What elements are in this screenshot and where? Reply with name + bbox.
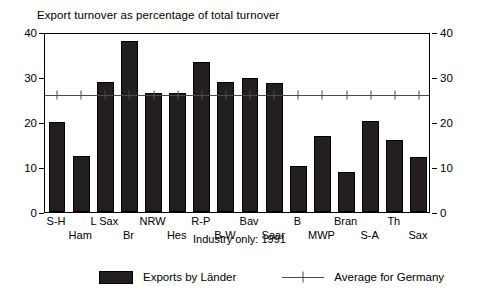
y-tick-right — [432, 123, 437, 124]
legend-entry-bars: Exports by Länder — [99, 271, 236, 284]
bar-hes — [169, 93, 186, 212]
x-axis-label-l-sax: L Sax — [90, 215, 118, 227]
chart-title: Export turnover as percentage of total t… — [37, 9, 280, 22]
x-axis-label-s-h: S-H — [47, 215, 66, 227]
y-tick-right — [432, 168, 437, 169]
chart-footnote: Industry only: 1991 — [193, 233, 286, 245]
chart-legend: Exports by Länder Average for Germany — [99, 267, 444, 287]
y-tick-label-right: 30 — [440, 72, 453, 84]
bar-sax — [410, 157, 427, 212]
x-axis-label-bav: Bav — [240, 215, 259, 227]
x-axis-label-hes: Hes — [167, 229, 187, 241]
bar-bran — [338, 172, 355, 212]
bar-b-w — [217, 82, 234, 212]
plot-area — [44, 33, 430, 213]
legend-line-marker-icon — [282, 271, 324, 283]
bar-b — [290, 166, 307, 212]
y-tick-label-left: 10 — [24, 162, 37, 174]
x-axis-label-bran: Bran — [334, 215, 357, 227]
bar-mwp — [314, 136, 331, 213]
x-axis-label-mwp: MWP — [308, 229, 335, 241]
y-tick-label-left: 40 — [24, 27, 37, 39]
y-axis-right: 010203040 — [432, 33, 472, 213]
x-axis-label-ham: Ham — [69, 229, 92, 241]
bars-layer — [45, 34, 429, 212]
x-axis-label-th: Th — [387, 215, 400, 227]
x-axis-label-r-p: R-P — [191, 215, 210, 227]
y-tick-label-right: 20 — [440, 117, 453, 129]
bar-ham — [73, 156, 90, 212]
x-axis-label-nrw: NRW — [140, 215, 166, 227]
legend-entry-line: Average for Germany — [282, 271, 444, 284]
y-tick-label-left: 20 — [24, 117, 37, 129]
legend-bar-swatch-icon — [99, 271, 133, 284]
y-tick-label-right: 0 — [440, 207, 446, 219]
x-axis-label-br: Br — [123, 229, 134, 241]
bar-s-a — [362, 121, 379, 212]
bar-r-p — [193, 62, 210, 212]
bar-nrw — [145, 93, 162, 212]
bar-saar — [266, 83, 283, 212]
x-axis-label-s-a: S-A — [361, 229, 379, 241]
y-tick-right — [432, 213, 437, 214]
y-tick-right — [432, 78, 437, 79]
legend-bars-label: Exports by Länder — [143, 271, 236, 284]
bar-th — [386, 140, 403, 212]
x-axis-label-sax: Sax — [408, 229, 427, 241]
y-axis-left: 010203040 — [4, 33, 44, 213]
y-tick-label-right: 10 — [440, 162, 453, 174]
bar-s-h — [49, 122, 66, 212]
y-tick-label-right: 40 — [440, 27, 453, 39]
y-tick-label-left: 0 — [31, 207, 37, 219]
bar-br — [121, 41, 138, 212]
y-tick-right — [432, 33, 437, 34]
bar-l-sax — [97, 82, 114, 212]
chart-figure: Export turnover as percentage of total t… — [0, 0, 497, 301]
x-axis-label-b: B — [294, 215, 301, 227]
bar-bav — [242, 78, 259, 212]
y-tick-label-left: 30 — [24, 72, 37, 84]
legend-line-label: Average for Germany — [334, 271, 444, 284]
